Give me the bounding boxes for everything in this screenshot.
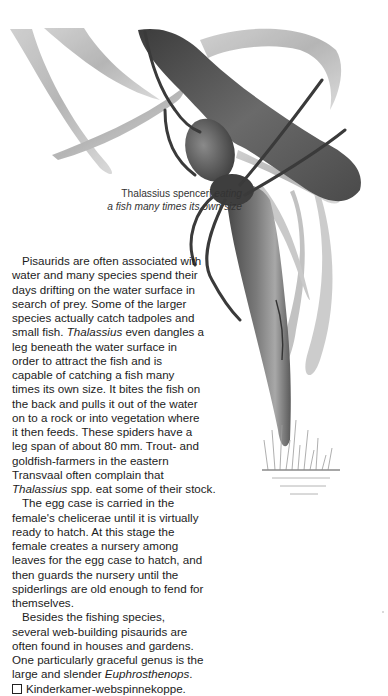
text-line: species actually catch tadpoles and bbox=[12, 311, 212, 325]
text-line: then guards the nursery until the bbox=[12, 568, 212, 582]
italic-taxon: Euphrosthenops bbox=[105, 667, 189, 680]
text-line: The egg case is carried in the bbox=[12, 496, 212, 510]
text-line: small fish. Thalassius even dangles a bbox=[12, 325, 212, 339]
text-line: the back and pulls it out of the water bbox=[12, 397, 212, 411]
speck bbox=[382, 611, 384, 613]
text-line: female's chelicerae until it is virtuall… bbox=[12, 511, 212, 525]
square-bullet-icon bbox=[12, 684, 22, 694]
text-line: Besides the fishing species, bbox=[12, 610, 212, 624]
text-line: leg beneath the water surface in bbox=[12, 340, 212, 354]
text-line: several web-building pisaurids are bbox=[12, 625, 212, 639]
text-line: capable of catching a fish many bbox=[12, 368, 212, 382]
text-line: it then feeds. These spiders have a bbox=[12, 425, 212, 439]
italic-taxon: Thalassius bbox=[12, 482, 67, 495]
text-line: days drifting on the water surface in bbox=[12, 283, 212, 297]
text-line: order to attract the fish and is bbox=[12, 354, 212, 368]
text-line: leaves for the egg case to hatch, and bbox=[12, 553, 212, 567]
text-line: on to a rock or into vegetation where bbox=[12, 411, 212, 425]
common-name: Kinderkamer-webspinnekoppe. bbox=[26, 682, 186, 695]
text-line: large and slender Euphrosthenops. bbox=[12, 667, 212, 681]
caption-eating: eating bbox=[214, 188, 242, 199]
text-line: spiderlings are old enough to fend for bbox=[12, 582, 212, 596]
text-line: goldfish-farmers in the eastern bbox=[12, 454, 212, 468]
text-line: Pisaurids are often associated with bbox=[12, 254, 212, 268]
text-line: times its own size. It bites the fish on bbox=[12, 382, 212, 396]
common-name-line: Kinderkamer-webspinnekoppe. bbox=[12, 682, 212, 696]
article-body: Pisaurids are often associated withwater… bbox=[12, 254, 212, 696]
reed-grass-tuft bbox=[264, 420, 332, 470]
water-surface bbox=[262, 470, 340, 494]
caption-species: Thalassius spenceri bbox=[121, 188, 211, 199]
text-line: Thalassius spp. eat some of their stock. bbox=[12, 482, 212, 496]
text-line: female creates a nursery among bbox=[12, 539, 212, 553]
figure-caption: Thalassius spenceri eating a fish many t… bbox=[42, 188, 242, 213]
text-line: One particularly graceful genus is the bbox=[12, 653, 212, 667]
caption-line-2: a fish many times its own size bbox=[42, 201, 242, 214]
text-line: search of prey. Some of the larger bbox=[12, 297, 212, 311]
italic-taxon: Thalassius bbox=[67, 325, 122, 338]
text-line: ready to hatch. At this stage the bbox=[12, 525, 212, 539]
text-line: Transvaal often complain that bbox=[12, 468, 212, 482]
text-line: water and many species spend their bbox=[12, 268, 212, 282]
text-line: often found in houses and gardens. bbox=[12, 639, 212, 653]
text-line: leg span of about 80 mm. Trout- and bbox=[12, 439, 212, 453]
text-line: themselves. bbox=[12, 596, 212, 610]
